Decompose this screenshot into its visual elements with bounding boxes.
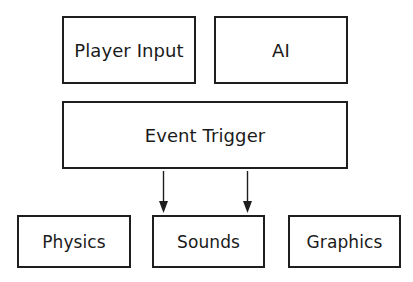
- node-label: Sounds: [177, 232, 240, 252]
- node-label: Physics: [42, 232, 106, 252]
- node-graphics: Graphics: [288, 215, 401, 268]
- arrow-icon: [159, 171, 168, 213]
- node-physics: Physics: [17, 215, 131, 268]
- arrow-icon: [243, 171, 252, 213]
- node-label: Graphics: [307, 232, 383, 252]
- node-sounds: Sounds: [152, 215, 265, 268]
